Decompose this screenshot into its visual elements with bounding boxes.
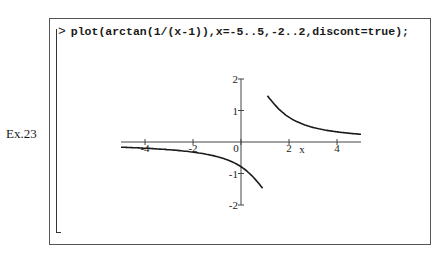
y-tick-label: 1 bbox=[233, 105, 239, 117]
x-axis-label: x bbox=[299, 143, 305, 155]
curve-branch bbox=[267, 96, 361, 135]
y-tick-label: 2 bbox=[233, 73, 239, 85]
y-tick-label: -1 bbox=[229, 168, 238, 180]
y-tick-label: -2 bbox=[229, 199, 238, 211]
plot-output[interactable]: -4-2024x -2-112 bbox=[0, 0, 442, 257]
x-tick-label: 2 bbox=[286, 142, 292, 154]
x-tick-label: 4 bbox=[334, 142, 340, 154]
x-tick-label: 0 bbox=[233, 142, 239, 154]
